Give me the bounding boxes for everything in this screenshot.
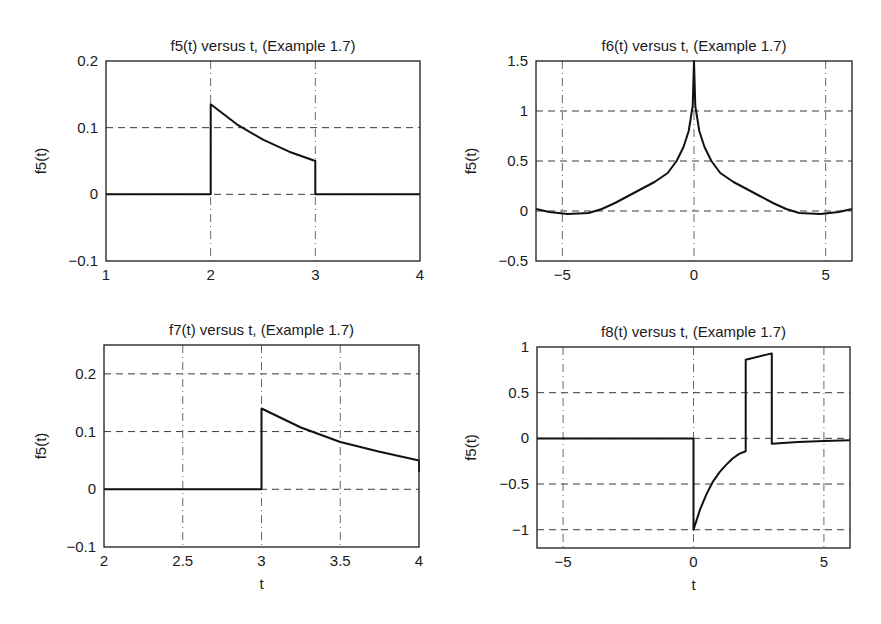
x-tick-label: 4 <box>415 552 423 569</box>
y-tick-label: 0.1 <box>77 119 98 136</box>
axes-frame <box>106 61 420 261</box>
y-tick-label: 0 <box>520 202 528 219</box>
y-tick-label: 0.2 <box>77 52 98 69</box>
chart-title: f5(t) versus t, (Example 1.7) <box>170 37 355 54</box>
y-tick-label: −0.1 <box>66 538 96 555</box>
subplot-f6: −0.500.511.5−505f6(t) versus t, (Example… <box>462 37 852 283</box>
y-axis-label: f5(t) <box>32 433 49 460</box>
subplot-f8: −1−0.500.51−505f8(t) versus t, (Example … <box>462 323 850 593</box>
y-tick-label: −1 <box>512 521 529 538</box>
y-tick-label: 1 <box>521 338 529 355</box>
y-axis-label: f5(t) <box>32 148 49 175</box>
y-tick-label: 0.2 <box>75 365 96 382</box>
x-tick-label: −5 <box>555 553 572 570</box>
data-line <box>104 409 419 490</box>
y-tick-label: 0.1 <box>75 423 96 440</box>
y-axis-label: f5(t) <box>462 148 479 175</box>
data-line <box>536 61 852 214</box>
subplot-f7: −0.100.10.222.533.54f7(t) versus t, (Exa… <box>32 321 423 592</box>
y-tick-label: 0 <box>521 429 529 446</box>
x-tick-label: −5 <box>554 266 571 283</box>
x-axis-label: t <box>259 575 264 592</box>
x-tick-label: 2 <box>100 552 108 569</box>
x-tick-label: 3 <box>257 552 265 569</box>
x-tick-label: 4 <box>416 266 424 283</box>
y-tick-label: 1.5 <box>507 52 528 69</box>
y-tick-label: −0.1 <box>68 252 98 269</box>
x-tick-label: 3.5 <box>330 552 351 569</box>
x-tick-label: 0 <box>690 266 698 283</box>
data-line <box>537 353 850 529</box>
x-tick-label: 0 <box>689 553 697 570</box>
subplot-f5: −0.100.10.21234f5(t) versus t, (Example … <box>32 37 424 283</box>
x-tick-label: 5 <box>821 266 829 283</box>
x-tick-label: 1 <box>102 266 110 283</box>
y-tick-label: 0 <box>88 480 96 497</box>
chart-title: f7(t) versus t, (Example 1.7) <box>169 321 354 338</box>
y-tick-label: 0 <box>90 185 98 202</box>
figure: −0.100.10.21234f5(t) versus t, (Example … <box>0 0 881 624</box>
data-line <box>106 104 420 194</box>
x-tick-label: 5 <box>820 553 828 570</box>
y-tick-label: 0.5 <box>508 384 529 401</box>
x-axis-label: t <box>691 576 696 593</box>
y-axis-label: f5(t) <box>462 434 479 461</box>
chart-title: f8(t) versus t, (Example 1.7) <box>601 323 786 340</box>
chart-title: f6(t) versus t, (Example 1.7) <box>601 37 786 54</box>
y-tick-label: 0.5 <box>507 152 528 169</box>
y-tick-label: −0.5 <box>498 252 528 269</box>
y-tick-label: 1 <box>520 102 528 119</box>
y-tick-label: −0.5 <box>499 475 529 492</box>
x-tick-label: 2.5 <box>172 552 193 569</box>
x-tick-label: 2 <box>206 266 214 283</box>
x-tick-label: 3 <box>311 266 319 283</box>
